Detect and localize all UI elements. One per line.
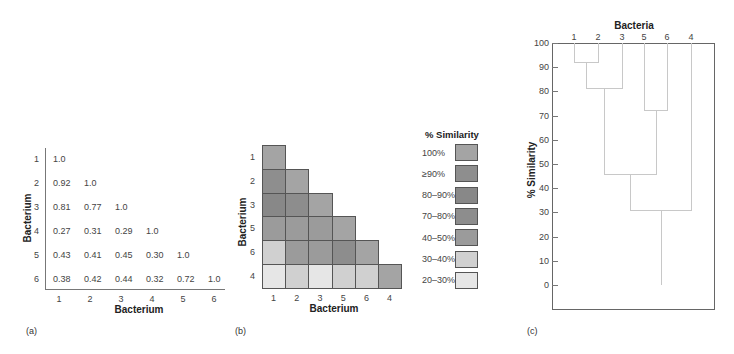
heatmap-cell bbox=[285, 193, 309, 218]
heatmap-cell bbox=[285, 264, 309, 289]
heatmap-cell bbox=[332, 264, 356, 289]
dendrogram-branch bbox=[661, 210, 662, 285]
dendrogram-branch bbox=[598, 43, 599, 62]
matrix-row-label: 3 bbox=[34, 203, 39, 212]
dendrogram-y-tick-label: 90 bbox=[539, 63, 549, 72]
matrix-value: 0.27 bbox=[53, 227, 71, 236]
matrix-value: 1.0 bbox=[53, 155, 66, 164]
matrix-value: 0.45 bbox=[115, 251, 133, 260]
heatmap-row-label: 4 bbox=[250, 271, 255, 280]
dendrogram-leaf-label: 6 bbox=[664, 33, 669, 42]
dendrogram-leaf-label: 4 bbox=[688, 33, 693, 42]
heatmap-cell bbox=[262, 145, 286, 170]
dendrogram-branch bbox=[656, 110, 657, 174]
legend-item-label: ≥90% bbox=[422, 169, 445, 178]
dendrogram-y-tick-label: 10 bbox=[539, 256, 549, 265]
heatmap-cell bbox=[308, 264, 332, 289]
matrix-value: 1.0 bbox=[115, 203, 128, 212]
heatmap-cell bbox=[308, 240, 332, 265]
legend-item-label: 80–90% bbox=[422, 191, 455, 200]
legend-swatch bbox=[455, 251, 478, 268]
heatmap-col-label: 5 bbox=[341, 294, 346, 303]
legend-swatch bbox=[455, 144, 478, 161]
matrix-value: 0.32 bbox=[146, 275, 164, 284]
dendrogram-y-tick-label: 20 bbox=[539, 232, 549, 241]
heatmap-row-label: 5 bbox=[250, 224, 255, 233]
dendrogram-y-tick-label: 30 bbox=[539, 208, 549, 217]
matrix-row-label: 2 bbox=[34, 179, 39, 188]
legend-item-label: 40–50% bbox=[422, 233, 455, 242]
dendrogram-y-tick-label: 40 bbox=[539, 184, 549, 193]
matrix-row-label: 1 bbox=[34, 155, 39, 164]
heatmap-cell bbox=[262, 169, 286, 194]
heatmap-cell bbox=[355, 264, 379, 289]
matrix-value: 0.30 bbox=[146, 251, 164, 260]
legend-swatch bbox=[455, 272, 478, 289]
matrix-value: 0.43 bbox=[53, 251, 71, 260]
panel-b-label: (b) bbox=[235, 327, 246, 336]
matrix-value: 0.92 bbox=[53, 179, 71, 188]
heatmap-cell bbox=[262, 240, 286, 265]
dendrogram-leaf-label: 3 bbox=[619, 33, 624, 42]
matrix-value: 1.0 bbox=[208, 275, 221, 284]
matrix-col-label: 3 bbox=[118, 295, 123, 304]
heatmap-cell bbox=[332, 216, 356, 241]
dendrogram-y-tick bbox=[552, 237, 558, 238]
dendrogram-y-tick-label: 100 bbox=[534, 39, 549, 48]
heatmap-col-label: 1 bbox=[271, 294, 276, 303]
dendrogram-y-tick-label: 0 bbox=[544, 281, 549, 290]
matrix-value: 0.31 bbox=[84, 227, 102, 236]
legend-swatch bbox=[455, 208, 478, 225]
heatmap-cell bbox=[355, 240, 379, 265]
heatmap-row-label: 2 bbox=[250, 176, 255, 185]
heatmap-cell bbox=[285, 240, 309, 265]
matrix-row-label: 5 bbox=[34, 251, 39, 260]
matrix-col-label: 6 bbox=[211, 295, 216, 304]
dendrogram-branch bbox=[667, 43, 668, 110]
panel-a-label: (a) bbox=[26, 327, 37, 336]
dendrogram-y-tick bbox=[552, 212, 558, 213]
dendrogram-branch bbox=[586, 62, 587, 87]
legend-swatch bbox=[455, 187, 478, 204]
dendrogram-branch bbox=[691, 43, 692, 210]
heatmap-cell bbox=[262, 193, 286, 218]
heatmap-cell bbox=[332, 240, 356, 265]
heatmap-cell bbox=[262, 264, 286, 289]
legend-item-label: 100% bbox=[422, 148, 445, 157]
matrix-y-axis bbox=[45, 148, 46, 290]
heatmap-cell bbox=[285, 169, 309, 194]
heatmap-row-label: 1 bbox=[250, 152, 255, 161]
dendrogram-y-tick-label: 50 bbox=[539, 160, 549, 169]
matrix-row-label: 6 bbox=[34, 275, 39, 284]
heatmap-cell bbox=[378, 264, 402, 289]
heatmap-row-label: 6 bbox=[250, 248, 255, 257]
legend-swatch bbox=[455, 165, 478, 182]
matrix-y-axis-title: Bacterium bbox=[23, 194, 33, 243]
matrix-value: 0.41 bbox=[84, 251, 102, 260]
dendrogram-y-tick bbox=[552, 261, 558, 262]
dendrogram-leaf-label: 2 bbox=[595, 33, 600, 42]
matrix-value: 0.38 bbox=[53, 275, 71, 284]
dendrogram-branch bbox=[604, 88, 605, 174]
matrix-col-label: 4 bbox=[149, 295, 154, 304]
matrix-value: 1.0 bbox=[146, 227, 159, 236]
matrix-value: 0.44 bbox=[115, 275, 133, 284]
matrix-value: 1.0 bbox=[84, 179, 97, 188]
dendrogram-y-tick bbox=[552, 91, 558, 92]
matrix-value: 0.81 bbox=[53, 203, 71, 212]
dendrogram-y-tick bbox=[552, 67, 558, 68]
panel-c-label: (c) bbox=[527, 327, 538, 336]
dendrogram-y-tick-label: 70 bbox=[539, 111, 549, 120]
matrix-col-label: 2 bbox=[87, 295, 92, 304]
heatmap-col-label: 3 bbox=[317, 294, 322, 303]
dendrogram-branch bbox=[630, 174, 631, 210]
dendrogram-y-tick bbox=[552, 140, 558, 141]
legend-swatch bbox=[455, 229, 478, 246]
matrix-row-label: 4 bbox=[34, 227, 39, 236]
dendrogram-y-tick bbox=[552, 116, 558, 117]
matrix-value: 1.0 bbox=[177, 251, 190, 260]
heatmap-cell bbox=[308, 193, 332, 218]
matrix-col-label: 1 bbox=[56, 295, 61, 304]
legend-item-label: 30–40% bbox=[422, 255, 455, 264]
dendrogram-top-title: Bacteria bbox=[614, 21, 653, 31]
